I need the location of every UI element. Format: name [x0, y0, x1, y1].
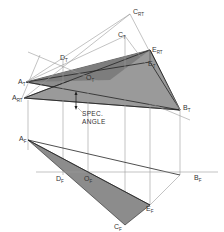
angle-arrowhead-down	[75, 106, 78, 110]
label-d-f: DF	[56, 175, 64, 184]
label-e-f: EF	[146, 205, 154, 214]
label-c-f: CF	[114, 223, 122, 232]
label-c-rt: CRT	[133, 8, 144, 17]
diagram-canvas: CRT CT ERT ET DT OT AT ART BT SPEC. ANGL…	[0, 0, 224, 232]
edge-af-ef	[28, 140, 150, 205]
edge-ef-bf	[150, 175, 180, 205]
label-b-f: BF	[194, 174, 202, 183]
label-a-rt: ART	[12, 94, 23, 103]
projection-diagram: CRT CT ERT ET DT OT AT ART BT SPEC. ANGL…	[0, 0, 224, 232]
label-e-rt: ERT	[152, 46, 163, 55]
annotation-angle: ANGLE	[82, 118, 106, 125]
label-c-t: CT	[118, 31, 126, 40]
label-a-t: AT	[18, 78, 26, 87]
label-a-f: AF	[19, 135, 27, 144]
label-b-t: BT	[183, 104, 191, 113]
annotation-spec: SPEC.	[82, 110, 103, 117]
